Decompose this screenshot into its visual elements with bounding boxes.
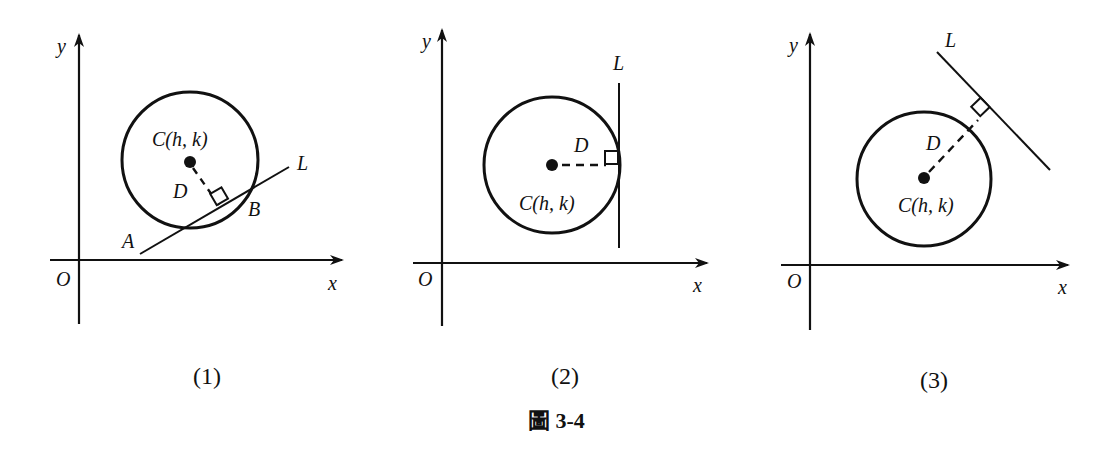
right-angle-marker [605,151,618,164]
line-label: L [944,29,956,51]
foot-label: D [925,132,941,154]
line-label: L [612,52,624,74]
origin-label: O [418,268,432,290]
panel-1: y x O C(h, k) D L A B (1) [50,35,342,389]
figure-3-4: y x O C(h, k) D L A B (1) y x O C(h, k) … [0,0,1110,451]
foot-label: D [172,180,188,202]
y-axis-label: y [787,34,798,57]
center-label: C(h, k) [152,128,208,151]
x-axis-label: x [692,274,702,296]
center-label: C(h, k) [519,192,575,215]
origin-label: O [787,270,801,292]
center-point [918,172,930,184]
center-point [546,159,558,171]
line-label: L [296,152,308,174]
point-b-label: B [248,198,260,220]
panel-caption: (2) [551,363,579,389]
origin-label: O [56,268,70,290]
center-label: C(h, k) [898,194,954,217]
y-axis-label: y [420,30,431,53]
line-l [140,167,289,254]
foot-label: D [573,134,589,156]
right-angle-marker [210,187,228,205]
right-angle-marker [971,98,989,116]
y-axis-label: y [55,35,66,58]
panel-caption: (1) [193,363,221,389]
point-a-label: A [120,230,135,252]
panel-2: y x O C(h, k) D L (2) [413,30,707,389]
figure-caption: 圖 3-4 [528,408,585,433]
center-point [184,156,196,168]
x-axis-label: x [327,272,337,294]
panel-caption: (3) [920,367,948,393]
line-l [937,52,1050,170]
x-axis-label: x [1057,276,1067,298]
panel-3: y x O C(h, k) D L (3) [781,29,1068,393]
